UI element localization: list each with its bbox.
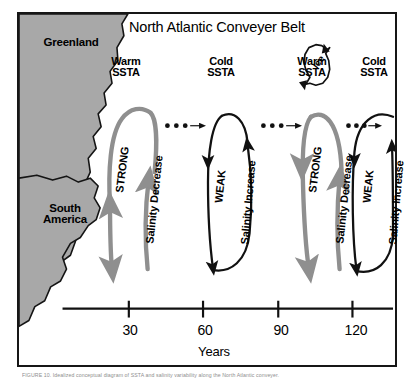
x-tick-label-90: 90 bbox=[261, 323, 301, 337]
south-america-label-line2: America bbox=[29, 214, 101, 226]
x-tick-label-30: 30 bbox=[110, 323, 150, 337]
figure-title: North Atlantic Conveyer Belt bbox=[129, 20, 305, 35]
diagram-frame: North Atlantic Conveyer Belt Greenland S… bbox=[17, 12, 397, 367]
figure-caption: FIGURE 10. Idealized conceptual diagram … bbox=[22, 372, 402, 378]
phase-1-ssta-line2: SSTA bbox=[96, 67, 156, 78]
greenland-label: Greenland bbox=[27, 37, 115, 49]
figure-root: North Atlantic Conveyer Belt Greenland S… bbox=[0, 0, 414, 383]
x-tick-label-120: 120 bbox=[336, 323, 376, 337]
x-tick-label-60: 60 bbox=[185, 323, 225, 337]
phase-4-ssta-line2: SSTA bbox=[344, 67, 404, 78]
phase-2-ssta-line2: SSTA bbox=[191, 67, 251, 78]
phase-3-ssta-line2: SSTA bbox=[282, 67, 342, 78]
x-axis-title: Years bbox=[174, 345, 254, 358]
